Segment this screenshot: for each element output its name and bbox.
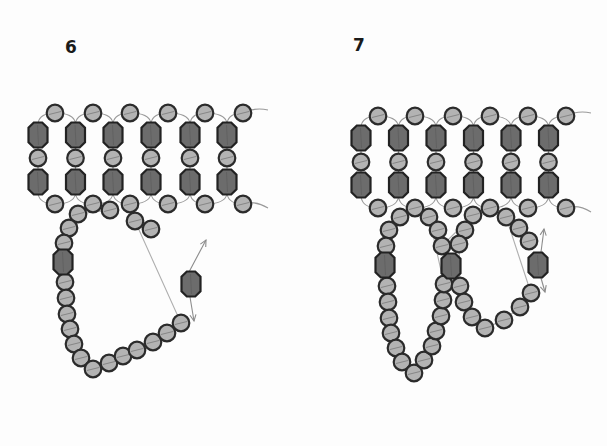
seed-bead-loop xyxy=(452,278,469,295)
seed-bead-loop xyxy=(381,310,398,327)
seed-bead-middle xyxy=(67,150,84,167)
thread-direction-arrow-icon xyxy=(189,240,206,272)
seed-bead-loop xyxy=(435,292,452,309)
seed-bead-loop xyxy=(521,233,538,250)
seed-bead-middle xyxy=(540,154,557,171)
seed-bead-loop xyxy=(496,312,513,329)
crystal-bead-lower xyxy=(181,170,200,195)
crystal-bead-upper xyxy=(464,126,483,151)
crystal-bead-lower xyxy=(427,173,446,198)
seed-bead-middle xyxy=(143,150,160,167)
thread-direction-arrow-icon xyxy=(540,278,546,292)
crystal-bead-upper xyxy=(29,123,48,148)
seed-bead-loop xyxy=(173,315,190,332)
seed-bead-loop xyxy=(102,202,119,219)
seed-bead-loop xyxy=(434,238,451,255)
crystal-bead-lower xyxy=(502,173,521,198)
seed-bead-middle xyxy=(390,154,407,171)
seed-bead-top-row xyxy=(407,108,424,125)
crystal-bead-upper xyxy=(352,126,371,151)
seed-bead-loop xyxy=(143,221,160,238)
seed-bead-top-row xyxy=(520,108,537,125)
crystal-bead-upper xyxy=(181,123,200,148)
seed-bead-bottom-row xyxy=(235,196,252,213)
step-7-diagram xyxy=(352,108,592,382)
crystal-bead-loop xyxy=(54,250,73,275)
seed-bead-loop xyxy=(512,299,529,316)
seed-bead-loop xyxy=(127,213,144,230)
seed-bead-bottom-row xyxy=(197,196,214,213)
seed-bead-bottom-row xyxy=(445,200,462,217)
seed-bead-loop xyxy=(58,290,75,307)
crystal-bead-upper xyxy=(502,126,521,151)
seed-bead-bottom-row xyxy=(122,196,139,213)
seed-bead-loop xyxy=(380,294,397,311)
seed-bead-bottom-row xyxy=(558,200,575,217)
seed-bead-loop xyxy=(433,308,450,325)
seed-bead-top-row xyxy=(482,108,499,125)
seed-bead-top-row xyxy=(160,105,177,122)
crystal-bead-upper xyxy=(389,126,408,151)
seed-bead-middle xyxy=(503,154,520,171)
seed-bead-bottom-row xyxy=(520,200,537,217)
step-6-diagram xyxy=(29,105,269,378)
seed-bead-loop xyxy=(430,222,447,239)
thread-direction-arrow-icon xyxy=(190,297,196,321)
seed-bead-top-row xyxy=(445,108,462,125)
seed-bead-loop xyxy=(451,236,468,253)
seed-bead-top-row xyxy=(122,105,139,122)
thread-direction-arrow-icon xyxy=(540,229,546,252)
crystal-bead-loop xyxy=(442,254,461,279)
crystal-bead-loop xyxy=(376,253,395,278)
crystal-bead-upper xyxy=(427,126,446,151)
seed-bead-loop xyxy=(477,320,494,337)
beads xyxy=(352,108,575,382)
crystal-bead-loop xyxy=(182,272,201,297)
crystal-bead-upper xyxy=(142,123,161,148)
crystal-bead-lower xyxy=(464,173,483,198)
crystal-bead-lower xyxy=(29,170,48,195)
seed-bead-top-row xyxy=(370,108,387,125)
seed-bead-middle xyxy=(30,150,47,167)
seed-bead-top-row xyxy=(235,105,252,122)
seed-bead-bottom-row xyxy=(370,200,387,217)
seed-bead-middle xyxy=(182,150,199,167)
crystal-bead-lower xyxy=(389,173,408,198)
seed-bead-middle xyxy=(428,154,445,171)
crystal-bead-lower xyxy=(142,170,161,195)
crystal-bead-loop xyxy=(529,253,548,278)
seed-bead-middle xyxy=(219,150,236,167)
seed-bead-loop xyxy=(465,207,482,224)
seed-bead-bottom-row xyxy=(47,196,64,213)
crystal-bead-lower xyxy=(352,173,371,198)
crystal-bead-upper xyxy=(104,123,123,148)
seed-bead-top-row xyxy=(85,105,102,122)
seed-bead-loop xyxy=(523,285,540,302)
seed-bead-top-row xyxy=(47,105,64,122)
seed-bead-bottom-row xyxy=(160,196,177,213)
seed-bead-loop xyxy=(129,342,146,359)
seed-bead-loop xyxy=(59,306,76,323)
seed-bead-bottom-row xyxy=(482,200,499,217)
seed-bead-top-row xyxy=(558,108,575,125)
crystal-bead-lower xyxy=(539,173,558,198)
seed-bead-loop xyxy=(57,274,74,291)
crystal-bead-upper xyxy=(218,123,237,148)
seed-bead-middle xyxy=(105,150,122,167)
seed-bead-loop xyxy=(381,222,398,239)
seed-bead-loop xyxy=(456,294,473,311)
seed-bead-loop xyxy=(379,278,396,295)
beading-diagram-canvas xyxy=(0,0,607,446)
seed-bead-middle xyxy=(353,154,370,171)
crystal-bead-upper xyxy=(66,123,85,148)
crystal-bead-lower xyxy=(66,170,85,195)
beads xyxy=(29,105,252,378)
crystal-bead-upper xyxy=(539,126,558,151)
seed-bead-top-row xyxy=(197,105,214,122)
crystal-bead-lower xyxy=(218,170,237,195)
seed-bead-middle xyxy=(465,154,482,171)
crystal-bead-lower xyxy=(104,170,123,195)
seed-bead-loop xyxy=(85,361,102,378)
seed-bead-bottom-row xyxy=(85,196,102,213)
